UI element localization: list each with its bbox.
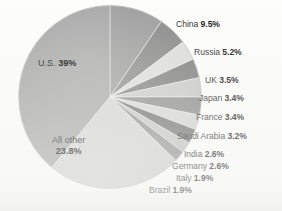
slice-label-all-other-value: 23.8% (56, 146, 82, 156)
slice-label-uk: UK 3.5% (205, 75, 239, 86)
slice-label-india-value: 2.6% (205, 149, 224, 159)
slice-label-italy-value: 1.9% (194, 173, 213, 183)
slice-label-japan-name: Japan (199, 93, 222, 103)
slice-label-us-value: 39% (58, 58, 76, 68)
slice-label-russia-name: Russia (194, 47, 220, 57)
slice-label-brazil-name: Brazil (149, 185, 170, 195)
slice-label-italy: Italy 1.9% (176, 173, 213, 184)
slice-label-china-value: 9.5% (201, 19, 220, 29)
slice-label-uk-value: 3.5% (219, 75, 238, 85)
slice-label-germany: Germany 2.6% (172, 161, 229, 172)
slice-label-all-other-name: All other (52, 135, 85, 145)
slice-label-saudi-arabia: Saudi Arabia 3.2% (177, 131, 247, 142)
slice-label-france-name: France (196, 112, 222, 122)
slice-label-russia: Russia 5.2% (194, 47, 242, 58)
slice-label-brazil: Brazil 1.9% (149, 185, 192, 196)
slice-label-india: India 2.6% (184, 149, 224, 160)
pie-chart-figure: U.S. 39% All other 23.8% China 9.5% Russ… (0, 0, 282, 211)
slice-label-china: China 9.5% (176, 19, 220, 30)
slice-label-saudi-arabia-value: 3.2% (227, 131, 246, 141)
slice-label-saudi-arabia-name: Saudi Arabia (177, 131, 225, 141)
slice-label-uk-name: UK (205, 75, 217, 85)
slice-label-us-name: U.S. (38, 58, 56, 68)
slice-label-brazil-value: 1.9% (173, 185, 192, 195)
slice-label-france: France 3.4% (196, 112, 244, 123)
slice-label-japan-value: 3.4% (225, 93, 244, 103)
slice-label-us: U.S. 39% (38, 58, 76, 69)
slice-label-italy-name: Italy (176, 173, 192, 183)
slice-label-japan: Japan 3.4% (199, 93, 244, 104)
slice-label-germany-name: Germany (172, 161, 207, 171)
slice-label-all-other: All other 23.8% (52, 135, 85, 157)
slice-label-china-name: China (176, 19, 198, 29)
slice-label-india-name: India (184, 149, 202, 159)
slice-label-russia-value: 5.2% (222, 47, 241, 57)
slice-label-france-value: 3.4% (225, 112, 244, 122)
slice-label-germany-value: 2.6% (209, 161, 228, 171)
